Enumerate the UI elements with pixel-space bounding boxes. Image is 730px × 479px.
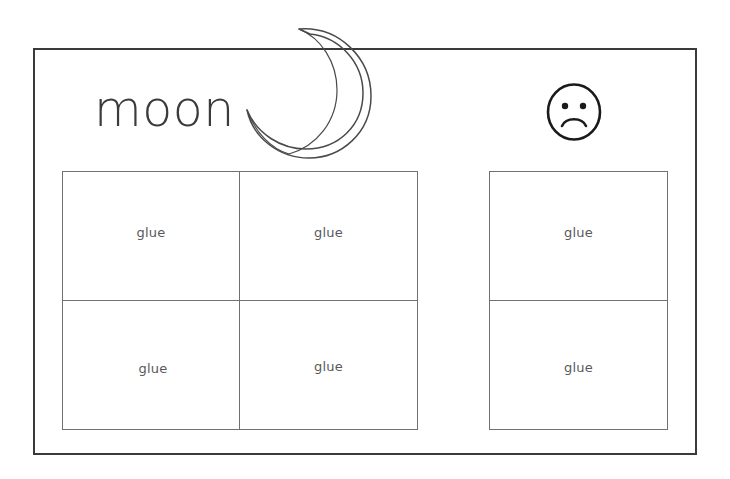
glue-label: glue [137, 225, 166, 241]
worksheet-page: moon glue glue glue glue [0, 0, 730, 479]
glue-cell[interactable]: glue [490, 172, 667, 301]
sad-face-icon [543, 81, 605, 143]
crescent-moon-icon [243, 16, 379, 162]
glue-label: glue [564, 225, 593, 241]
glue-cell[interactable]: glue [63, 172, 240, 301]
left-glue-grid: glue glue glue glue [62, 171, 418, 430]
glue-label: glue [564, 360, 593, 376]
glue-label: glue [314, 359, 343, 375]
glue-cell[interactable]: glue [63, 301, 240, 430]
glue-cell[interactable]: glue [490, 301, 667, 430]
glue-label: glue [139, 361, 168, 377]
glue-cell[interactable]: glue [240, 172, 417, 301]
right-glue-grid: glue glue [489, 171, 668, 430]
glue-cell[interactable]: glue [240, 301, 417, 430]
page-title: moon [94, 82, 235, 137]
glue-label: glue [314, 225, 343, 241]
